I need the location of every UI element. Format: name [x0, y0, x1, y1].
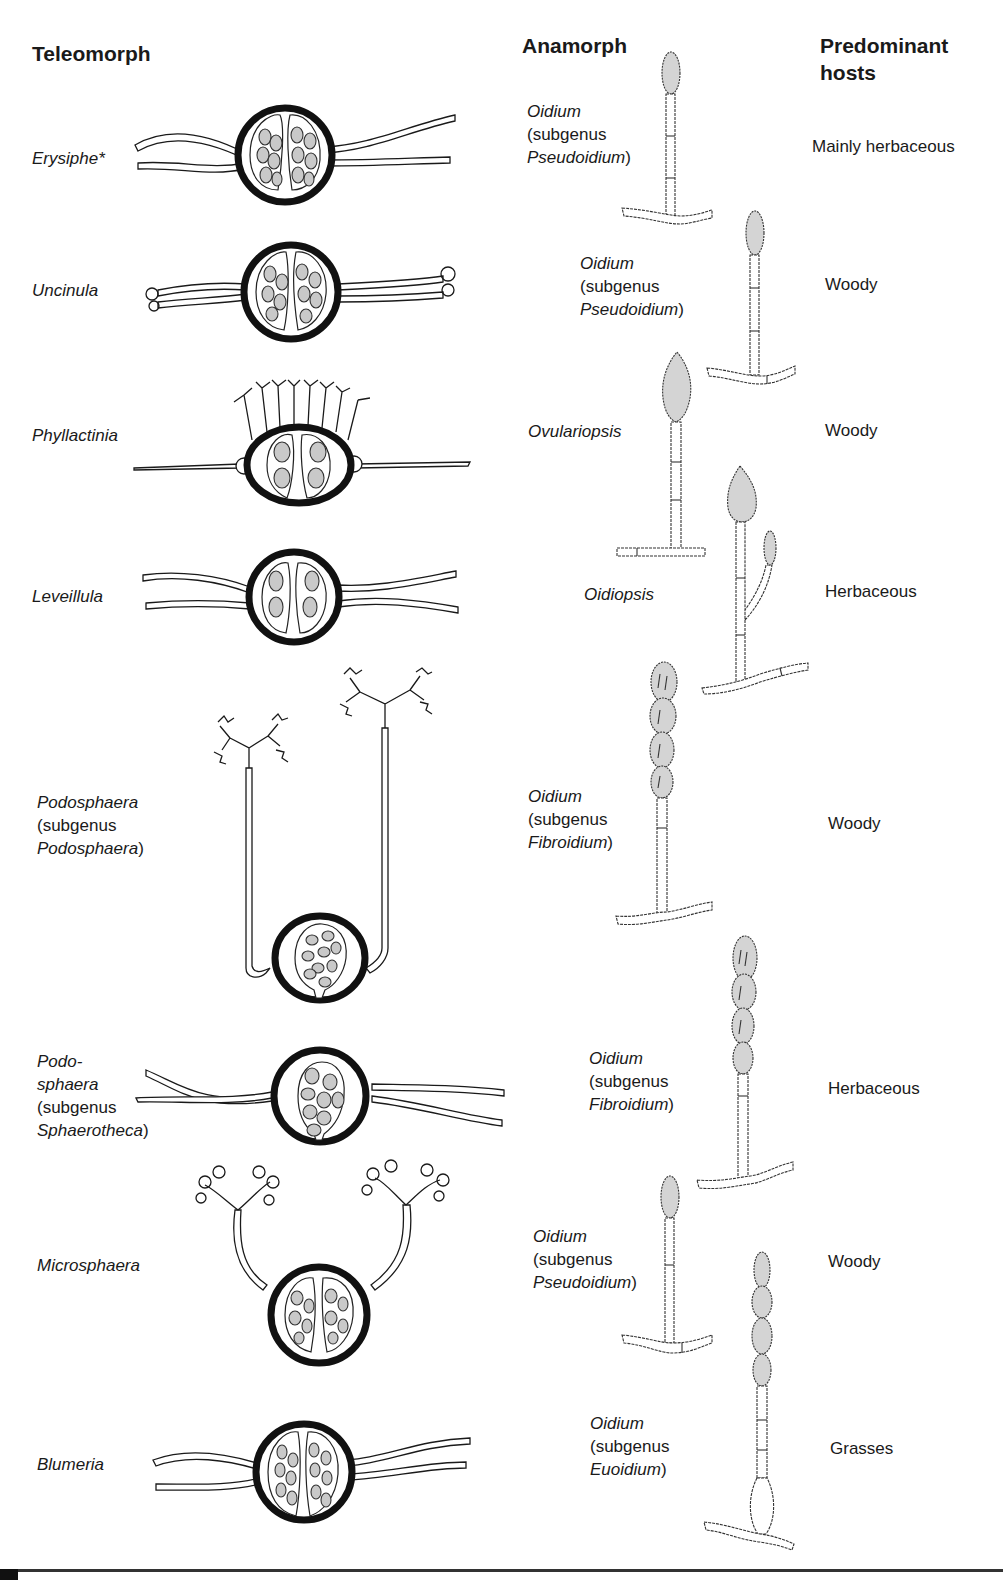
host-row5: Woody [828, 812, 881, 835]
bottom-rule [0, 1569, 1003, 1572]
anamorph-genus: Oidium [590, 1412, 669, 1435]
anamorph-genus: Oidium [527, 100, 631, 123]
anamorph-subgenus-suffix: ) [661, 1460, 667, 1479]
anamorph-conidiophore-row8 [700, 1250, 810, 1550]
anamorph-subgenus: Fibroidium [589, 1095, 668, 1114]
host-row2: Woody [825, 273, 878, 296]
anamorph-label-row2: Oidium (subgenus Pseudoidium) [580, 252, 684, 321]
anamorph-subgenus-prefix: (subgenus [589, 1070, 674, 1093]
anamorph-subgenus-prefix: (subgenus [580, 275, 684, 298]
anamorph-subgenus: Pseudoidium [580, 300, 678, 319]
teleomorph-subgenus: Podosphaera [37, 839, 138, 858]
anamorph-subgenus-suffix: ) [678, 300, 684, 319]
anamorph-genus: Oidium [528, 785, 613, 808]
teleomorph-label-podosphaera: Podosphaera (subgenus Podosphaera) [37, 791, 144, 860]
teleomorph-subgenus: Sphaerotheca [37, 1121, 143, 1140]
anamorph-conidiophore-row2 [705, 208, 805, 388]
host-row1: Mainly herbaceous [812, 135, 955, 158]
host-row8: Grasses [830, 1437, 893, 1460]
anamorph-label-row8: Oidium (subgenus Euoidium) [590, 1412, 669, 1481]
anamorph-label-oidiopsis: Oidiopsis [584, 583, 654, 606]
header-anamorph: Anamorph [522, 32, 627, 59]
blumeria-chasmothecium-illustration [148, 1412, 478, 1532]
host-row6: Herbaceous [828, 1077, 920, 1100]
teleomorph-label-uncinula: Uncinula [32, 279, 98, 302]
header-hosts-line2: hosts [820, 59, 948, 86]
teleomorph-genus: Podosphaera [37, 791, 144, 814]
anamorph-subgenus-prefix: (subgenus [590, 1435, 669, 1458]
uncinula-chasmothecium-illustration [138, 232, 468, 352]
microsphaera-chasmothecium-illustration [195, 1160, 455, 1380]
host-row4: Herbaceous [825, 580, 917, 603]
anamorph-conidiophore-row5 [612, 660, 722, 950]
anamorph-subgenus-prefix: (subgenus [528, 808, 613, 831]
anamorph-label-row6: Oidium (subgenus Fibroidium) [589, 1047, 674, 1116]
bottom-rule-marker [0, 1569, 18, 1580]
teleomorph-subgenus-suffix: ) [138, 839, 144, 858]
teleomorph-label-phyllactinia: Phyllactinia [32, 424, 118, 447]
anamorph-label-ovulariopsis: Ovulariopsis [528, 420, 622, 443]
sphaerotheca-chasmothecium-illustration [132, 1030, 512, 1150]
teleomorph-label-leveillula: Leveillula [32, 585, 103, 608]
host-row3: Woody [825, 419, 878, 442]
phyllactinia-chasmothecium-illustration [132, 380, 482, 530]
anamorph-subgenus-prefix: (subgenus [527, 123, 631, 146]
host-row7: Woody [828, 1250, 881, 1273]
anamorph-label-row1: Oidium (subgenus Pseudoidium) [527, 100, 631, 169]
podosphaera-chasmothecium-illustration [210, 668, 440, 1008]
teleomorph-label-microsphaera: Microsphaera [37, 1254, 140, 1277]
teleomorph-label-blumeria: Blumeria [37, 1453, 104, 1476]
header-hosts-line1: Predominant [820, 32, 948, 59]
teleomorph-subgenus-prefix: (subgenus [37, 814, 144, 837]
teleomorph-label-erysiphe: Erysiphe* [32, 147, 105, 170]
anamorph-subgenus-suffix: ) [668, 1095, 674, 1114]
anamorph-subgenus: Fibroidium [528, 833, 607, 852]
anamorph-subgenus: Pseudoidium [533, 1273, 631, 1292]
header-predominant-hosts: Predominant hosts [820, 32, 948, 86]
anamorph-conidiophore-row1 [620, 50, 720, 230]
header-teleomorph: Teleomorph [32, 40, 151, 67]
anamorph-subgenus: Pseudoidium [527, 148, 625, 167]
anamorph-subgenus: Euoidium [590, 1460, 661, 1479]
anamorph-conidiophore-row6 [695, 930, 805, 1200]
anamorph-genus: Oidium [580, 252, 684, 275]
anamorph-label-row5: Oidium (subgenus Fibroidium) [528, 785, 613, 854]
leveillula-chasmothecium-illustration [138, 545, 468, 655]
anamorph-genus: Oidium [589, 1047, 674, 1070]
erysiphe-chasmothecium-illustration [130, 85, 460, 205]
